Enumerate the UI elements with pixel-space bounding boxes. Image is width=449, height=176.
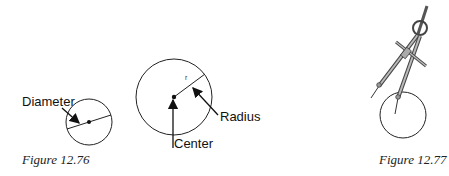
- diameter-circle-diagram: Diameter: [22, 94, 112, 145]
- radius-label: Radius: [220, 109, 261, 124]
- diameter-arrow: [62, 108, 79, 123]
- radius-circle-diagram: r Radius Center: [136, 59, 261, 151]
- radius-r-label: r: [185, 74, 188, 81]
- figure-caption-12-77: Figure 12.77: [378, 152, 447, 167]
- radius-line: [174, 74, 205, 97]
- compass-needle-tip: [395, 98, 398, 114]
- compass-pencil-tip: [371, 86, 379, 98]
- center-dot: [172, 95, 176, 99]
- center-label: Center: [174, 136, 214, 151]
- center-dot: [87, 120, 91, 124]
- diameter-label: Diameter: [22, 94, 75, 109]
- compass-handle: [418, 6, 427, 34]
- figure-caption-12-76: Figure 12.76: [21, 152, 90, 167]
- drawn-circle: [380, 92, 426, 138]
- geometry-figures: Diameter Figure 12.76 r Radius Center Fi…: [0, 0, 449, 176]
- compass-diagram: [371, 6, 427, 138]
- radius-arrow: [193, 88, 218, 115]
